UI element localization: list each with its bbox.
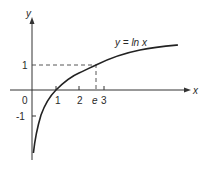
y-axis-label: y <box>25 8 32 19</box>
x-tick-label-e: e <box>92 95 98 106</box>
x-axis-label: x <box>192 85 199 96</box>
y-tick-label-1: 1 <box>22 60 28 71</box>
x-axis-arrow-icon <box>184 88 191 93</box>
ln-plot: y x 0 1 2 e 3 1 -1 y = ln x <box>0 0 207 169</box>
x-tick-label-2: 2 <box>77 95 83 106</box>
y-tick-label-minus1: -1 <box>16 111 25 122</box>
x-tick-label-3: 3 <box>101 95 107 106</box>
x-tick-label-1: 1 <box>55 95 61 106</box>
origin-label: 0 <box>22 95 28 106</box>
curve-label: y = ln x <box>114 37 148 48</box>
